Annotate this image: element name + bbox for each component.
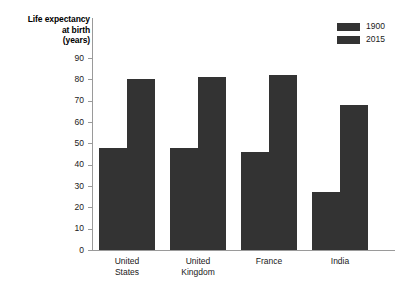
- legend-swatch-icon-2015: [337, 36, 360, 44]
- x-label-line: Kingdom: [153, 267, 243, 278]
- legend-label-2015: 2015: [366, 35, 385, 44]
- bar-france-1900: [241, 152, 269, 250]
- legend-label-1900: 1900: [366, 22, 385, 31]
- legend-item-2015[interactable]: 2015: [337, 33, 385, 46]
- bar-india-1900: [312, 192, 340, 250]
- bar-france-2015: [269, 75, 297, 250]
- legend: 1900 2015: [337, 20, 385, 46]
- legend-swatch-icon-1900: [337, 23, 360, 31]
- bar-india-2015: [340, 105, 368, 250]
- bar-chart: Life expectancy at birth (years) 9080706…: [0, 0, 408, 293]
- bar-united-kingdom-2015: [198, 77, 226, 250]
- x-label-india: India: [295, 256, 385, 267]
- x-label-line: India: [295, 256, 385, 267]
- bar-united-kingdom-1900: [170, 148, 198, 250]
- bar-united-states-2015: [127, 79, 155, 250]
- legend-item-1900[interactable]: 1900: [337, 20, 385, 33]
- bar-united-states-1900: [99, 148, 127, 250]
